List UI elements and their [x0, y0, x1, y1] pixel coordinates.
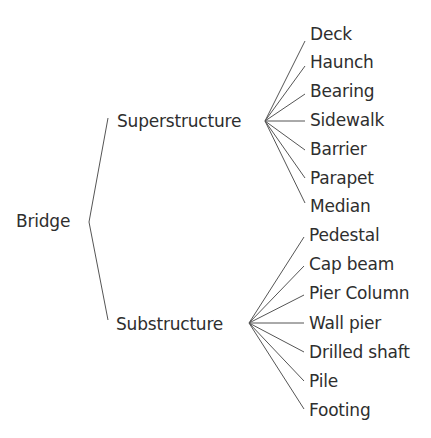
leaf-deck: Deck — [310, 24, 352, 44]
bridge-component-tree: Bridge Superstructure Substructure Deck … — [0, 0, 431, 438]
leaf-median: Median — [310, 196, 371, 216]
node-superstructure: Superstructure — [117, 111, 241, 131]
connector-bridge-superstructure — [89, 118, 108, 222]
substructure-fan — [249, 237, 304, 409]
leaf-pier-column: Pier Column — [309, 283, 409, 303]
leaf-bearing: Bearing — [310, 81, 374, 101]
leaf-pile: Pile — [309, 371, 338, 391]
leaf-haunch: Haunch — [310, 52, 374, 72]
leaf-cap-beam: Cap beam — [309, 254, 394, 274]
leaf-parapet: Parapet — [310, 168, 374, 188]
superstructure-fan — [265, 41, 305, 203]
leaf-footing: Footing — [309, 400, 371, 420]
leaf-drilled-shaft: Drilled shaft — [309, 342, 410, 362]
connector-bridge-substructure — [89, 222, 108, 320]
leaf-barrier: Barrier — [310, 139, 367, 159]
node-bridge: Bridge — [16, 211, 70, 231]
node-substructure: Substructure — [116, 314, 223, 334]
leaf-sidewalk: Sidewalk — [310, 110, 384, 130]
leaf-pedestal: Pedestal — [309, 225, 379, 245]
leaf-wall-pier: Wall pier — [309, 313, 381, 333]
